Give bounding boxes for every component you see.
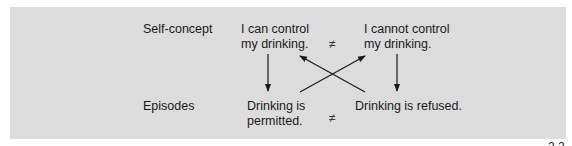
cropped-caption-fragment: 2.2: [548, 140, 565, 146]
arrows-layer: [0, 0, 572, 146]
